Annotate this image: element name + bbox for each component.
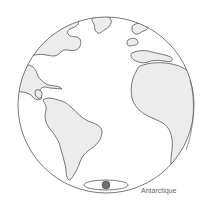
central-america-shape	[35, 90, 42, 99]
label-antarctique: Antarctique	[141, 187, 176, 194]
south-pole-marker	[102, 181, 110, 189]
globe-diagram	[0, 0, 205, 205]
europe-shape-2	[127, 38, 138, 46]
